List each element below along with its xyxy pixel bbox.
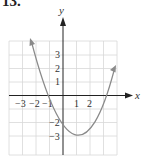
axes — [9, 24, 127, 155]
x-tick-label: 1 — [74, 98, 79, 109]
x-tick-label: −3 — [15, 98, 26, 109]
y-axis-arrow-icon — [60, 17, 66, 26]
parabola-graph: x y −3 −2 −1 1 2 3 2 1 −2 −3 — [0, 0, 146, 166]
x-axis-arrow-icon — [125, 93, 133, 99]
curve-arrow-left-icon — [30, 38, 36, 46]
y-axis-label: y — [58, 4, 64, 16]
y-tick-label: −3 — [49, 131, 60, 142]
y-tick-label: 2 — [55, 63, 60, 74]
x-tick-label: −2 — [29, 98, 40, 109]
parabola-curve — [32, 42, 115, 135]
y-tick-label: 1 — [55, 76, 60, 87]
y-tick-label: 3 — [55, 49, 60, 60]
x-tick-label: 2 — [87, 98, 92, 109]
y-tick-label: −2 — [49, 117, 60, 128]
x-axis-label: x — [134, 89, 140, 101]
